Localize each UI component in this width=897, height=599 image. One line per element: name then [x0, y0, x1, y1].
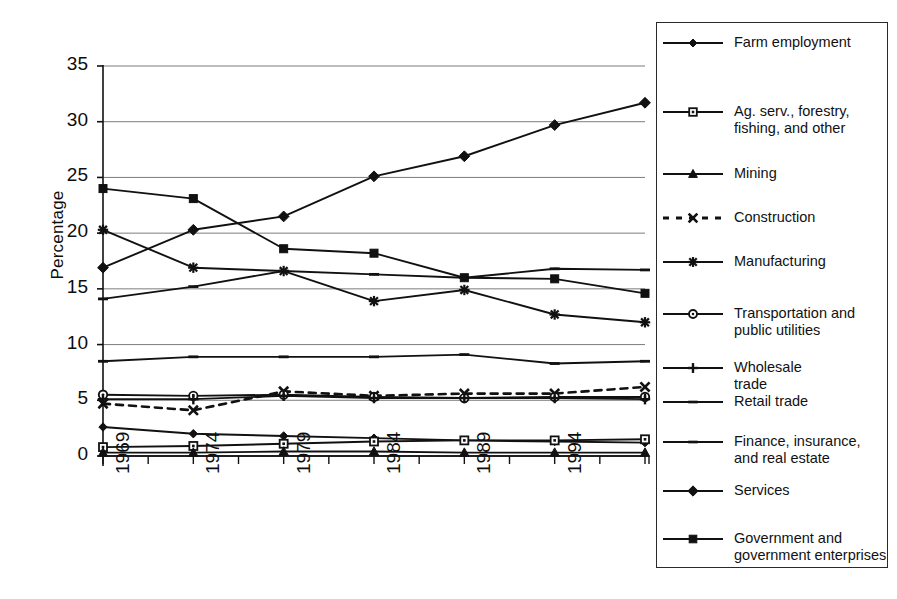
- data-point-marker: [280, 245, 288, 253]
- legend-label: Government andgovernment enterprises: [731, 530, 886, 563]
- series-line: [103, 103, 645, 268]
- legend-symbol: [657, 306, 731, 322]
- data-point-marker: [279, 355, 289, 358]
- legend-symbol: [657, 531, 731, 547]
- legend-label-line1: Farm employment: [734, 34, 851, 51]
- data-point-marker: [551, 275, 559, 283]
- legend-symbol: [657, 210, 731, 226]
- legend-label-line1: Construction: [734, 209, 815, 226]
- data-point-marker: [460, 436, 468, 444]
- legend-symbol: [657, 434, 731, 450]
- data-point-marker: [98, 297, 108, 300]
- data-point-marker: [459, 151, 470, 162]
- legend-label-line2: trade: [734, 376, 802, 393]
- legend-item[interactable]: Services: [657, 482, 889, 499]
- legend-label-line1: Government and: [734, 530, 886, 547]
- data-point-marker: [98, 262, 109, 273]
- data-point-marker: [459, 353, 469, 356]
- data-point-marker: [369, 273, 379, 276]
- data-point-marker: [370, 249, 378, 257]
- data-point-marker: [640, 97, 651, 108]
- data-point-marker: [550, 267, 560, 270]
- legend-item[interactable]: Government andgovernment enterprises: [657, 530, 889, 563]
- data-point-marker: [99, 185, 107, 193]
- data-point-marker: [99, 423, 107, 431]
- data-point-marker: [641, 435, 649, 443]
- data-point-marker: [369, 296, 379, 306]
- legend-item[interactable]: Finance, insurance,and real estate: [657, 433, 889, 466]
- legend-label: Transportation andpublic utilities: [731, 305, 855, 338]
- legend-symbol: [657, 483, 731, 499]
- data-point-marker: [188, 262, 198, 272]
- legend-label-line2: and real estate: [734, 450, 861, 467]
- data-point-marker: [279, 270, 289, 273]
- legend-label: Retail trade: [731, 393, 808, 410]
- legend-symbol: [657, 35, 731, 51]
- data-point-marker: [549, 309, 559, 319]
- series-line: [103, 230, 645, 322]
- legend-symbol: [657, 360, 731, 376]
- legend-label-line2: government enterprises: [734, 547, 886, 564]
- data-point-marker: [640, 360, 650, 363]
- legend-symbol: [657, 166, 731, 182]
- data-point-marker: [278, 211, 289, 222]
- legend-label: Ag. serv., forestry,fishing, and other: [731, 103, 850, 136]
- legend-label-line1: Wholesale: [734, 359, 802, 376]
- legend-label-line1: Transportation and: [734, 305, 855, 322]
- data-point-marker: [640, 382, 649, 391]
- data-point-marker: [640, 269, 650, 272]
- legend-label: Construction: [731, 209, 815, 226]
- legend-label-line1: Retail trade: [734, 393, 808, 410]
- legend: Farm employmentAg. serv., forestry,fishi…: [656, 22, 888, 568]
- data-point-marker: [188, 355, 198, 358]
- legend-item[interactable]: Mining: [657, 165, 889, 182]
- legend-item[interactable]: Ag. serv., forestry,fishing, and other: [657, 103, 889, 136]
- data-point-marker: [369, 171, 380, 182]
- legend-label: Mining: [731, 165, 777, 182]
- series-line: [103, 189, 645, 294]
- legend-label-line1: Ag. serv., forestry,: [734, 103, 850, 120]
- legend-label: Manufacturing: [731, 253, 826, 270]
- chart-figure: Percentage 05101520253035 19691974197919…: [0, 0, 897, 599]
- legend-label-line1: Services: [734, 482, 790, 499]
- legend-item[interactable]: Manufacturing: [657, 253, 889, 270]
- legend-symbol: [657, 254, 731, 270]
- data-point-marker: [98, 225, 108, 235]
- legend-item[interactable]: Construction: [657, 209, 889, 226]
- data-point-marker: [550, 362, 560, 365]
- legend-label: Finance, insurance,and real estate: [731, 433, 861, 466]
- legend-item[interactable]: Farm employment: [657, 34, 889, 51]
- data-point-marker: [369, 355, 379, 358]
- legend-label: Services: [731, 482, 790, 499]
- legend-symbol: [657, 394, 731, 410]
- legend-item[interactable]: Wholesaletrade: [657, 359, 889, 392]
- legend-label-line2: public utilities: [734, 322, 855, 339]
- data-point-marker: [460, 274, 468, 282]
- legend-label: Farm employment: [731, 34, 851, 51]
- legend-label-line1: Finance, insurance,: [734, 433, 861, 450]
- data-point-marker: [98, 360, 108, 363]
- data-point-marker: [459, 285, 469, 295]
- data-point-marker: [189, 430, 197, 438]
- data-point-marker: [189, 195, 197, 203]
- legend-symbol: [657, 104, 731, 120]
- data-point-marker: [641, 289, 649, 297]
- legend-item[interactable]: Transportation andpublic utilities: [657, 305, 889, 338]
- data-point-marker: [640, 317, 650, 327]
- legend-label-line1: Manufacturing: [734, 253, 826, 270]
- data-point-marker: [551, 436, 559, 444]
- legend-item[interactable]: Retail trade: [657, 393, 889, 410]
- legend-label-line2: fishing, and other: [734, 120, 850, 137]
- legend-label: Wholesaletrade: [731, 359, 802, 392]
- data-point-marker: [188, 285, 198, 288]
- data-point-marker: [370, 438, 378, 446]
- legend-label-line1: Mining: [734, 165, 777, 182]
